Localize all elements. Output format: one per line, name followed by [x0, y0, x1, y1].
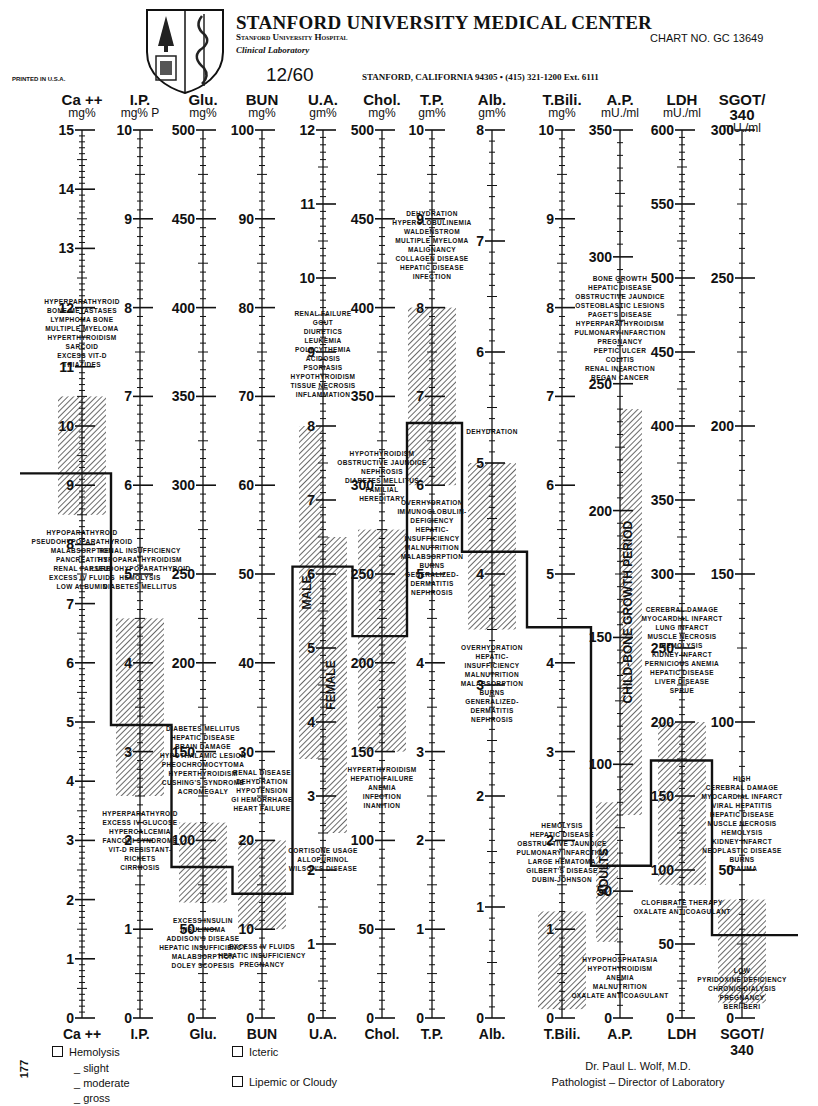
svg-text:PAGET'S DISEASE: PAGET'S DISEASE — [588, 311, 652, 318]
svg-text:CIRRHOSIS: CIRRHOSIS — [120, 864, 160, 871]
svg-text:OSTEOBLASTIC LESIONS: OSTEOBLASTIC LESIONS — [575, 302, 665, 309]
svg-text:500: 500 — [651, 270, 675, 286]
svg-text:LOW: LOW — [734, 967, 751, 974]
svg-text:LIVER DISEASE: LIVER DISEASE — [655, 678, 710, 685]
svg-text:8: 8 — [476, 122, 484, 138]
svg-text:7: 7 — [416, 388, 424, 404]
svg-text:7: 7 — [476, 233, 484, 249]
svg-text:8: 8 — [416, 300, 424, 316]
svg-text:CEREBRAL DAMAGE: CEREBRAL DAMAGE — [646, 606, 719, 613]
lipemic-checkbox[interactable]: Lipemic or Cloudy — [232, 1076, 337, 1088]
svg-text:1: 1 — [416, 921, 424, 937]
svg-text:15: 15 — [58, 122, 74, 138]
svg-text:DUBIN-JOHNSON: DUBIN-JOHNSON — [532, 876, 592, 883]
svg-text:0: 0 — [246, 1010, 254, 1026]
svg-text:NEOPLASTIC DISEASE: NEOPLASTIC DISEASE — [702, 847, 782, 854]
svg-text:DEFICIENCY: DEFICIENCY — [410, 517, 454, 524]
hemolysis-checkbox[interactable]: Hemolysis — [52, 1046, 120, 1058]
svg-text:20: 20 — [238, 832, 254, 848]
svg-text:600: 600 — [651, 122, 675, 138]
svg-text:2: 2 — [416, 832, 424, 848]
svg-text:MALIGNANCY: MALIGNANCY — [408, 246, 456, 253]
svg-text:CEREBRAL DAMAGE: CEREBRAL DAMAGE — [706, 784, 779, 791]
svg-text:VIRAL HEPATITIS: VIRAL HEPATITIS — [712, 802, 772, 809]
svg-text:EXCESS IV FLUIDS: EXCESS IV FLUIDS — [229, 943, 295, 950]
svg-text:0: 0 — [416, 1010, 424, 1026]
svg-text:LYMPHOMA BONE: LYMPHOMA BONE — [51, 316, 114, 323]
svg-text:HEREDITARY: HEREDITARY — [359, 495, 405, 502]
svg-text:FEMALE: FEMALE — [324, 660, 338, 709]
svg-text:PHEOCHROMOCYTOMA: PHEOCHROMOCYTOMA — [162, 761, 244, 768]
svg-text:10: 10 — [538, 122, 554, 138]
svg-text:PYRIDOXINE DEFICIENCY: PYRIDOXINE DEFICIENCY — [697, 976, 787, 983]
svg-text:200: 200 — [651, 714, 675, 730]
svg-text:1: 1 — [124, 921, 132, 937]
svg-text:HEPATIC DISEASE: HEPATIC DISEASE — [650, 669, 714, 676]
svg-text:PSORIASIS: PSORIASIS — [304, 364, 343, 371]
svg-text:COLLAGEN DISEASE: COLLAGEN DISEASE — [395, 255, 468, 262]
svg-text:MALABSORPTION: MALABSORPTION — [401, 553, 464, 560]
svg-text:5: 5 — [66, 714, 74, 730]
svg-text:450: 450 — [651, 344, 675, 360]
svg-text:INSUFFICIENCY: INSUFFICIENCY — [464, 662, 519, 669]
svg-text:BURNS: BURNS — [419, 562, 444, 569]
svg-text:BURNS: BURNS — [729, 856, 754, 863]
svg-text:300: 300 — [589, 249, 613, 265]
svg-text:HYPERTHYROIDISM: HYPERTHYROIDISM — [168, 770, 237, 777]
svg-text:PEPTIC ULCER: PEPTIC ULCER — [594, 347, 646, 354]
svg-text:0: 0 — [187, 1010, 195, 1026]
svg-text:EXCESS IV GLUCOSE: EXCESS IV GLUCOSE — [102, 819, 177, 826]
svg-text:PULMONARY INFARCTION: PULMONARY INFARCTION — [574, 329, 665, 336]
svg-text:HEMOLYSIS: HEMOLYSIS — [541, 822, 583, 829]
svg-text:RENAL INFARCTION: RENAL INFARCTION — [585, 365, 655, 372]
svg-text:MULTIPLE MYELOMA: MULTIPLE MYELOMA — [45, 325, 118, 332]
svg-text:INFECTION: INFECTION — [363, 793, 402, 800]
svg-text:4: 4 — [476, 566, 484, 582]
svg-text:5: 5 — [476, 455, 484, 471]
svg-text:EXCESS INSULIN: EXCESS INSULIN — [173, 917, 233, 924]
svg-text:0: 0 — [546, 1010, 554, 1026]
svg-text:LEUKEMIA: LEUKEMIA — [304, 337, 341, 344]
svg-text:4: 4 — [416, 655, 424, 671]
svg-text:200: 200 — [589, 503, 613, 519]
svg-text:GILBERT'S DISEASE: GILBERT'S DISEASE — [526, 867, 598, 874]
svg-text:300: 300 — [651, 566, 675, 582]
svg-text:INSUFFICIENCY: INSUFFICIENCY — [404, 535, 459, 542]
svg-text:10: 10 — [238, 921, 254, 937]
svg-text:HEPATIC DISEASE: HEPATIC DISEASE — [710, 811, 774, 818]
svg-text:1: 1 — [66, 951, 74, 967]
svg-text:BURNS: BURNS — [479, 689, 504, 696]
svg-text:PSEUDOHYPOPARATHYROID: PSEUDOHYPOPARATHYROID — [90, 565, 191, 572]
svg-text:PSEUDOHYPOPARATHYROID: PSEUDOHYPOPARATHYROID — [32, 538, 133, 545]
icteric-checkbox[interactable]: Icteric — [232, 1046, 278, 1058]
svg-text:6: 6 — [66, 655, 74, 671]
svg-text:OVERHYDRATION: OVERHYDRATION — [401, 499, 463, 506]
svg-text:4: 4 — [546, 655, 554, 671]
svg-text:KIDNEY INFARCT: KIDNEY INFARCT — [652, 651, 712, 658]
svg-text:0: 0 — [366, 1010, 374, 1026]
svg-text:350: 350 — [651, 492, 675, 508]
checkbox-icon — [232, 1076, 243, 1087]
svg-text:500: 500 — [351, 122, 375, 138]
svg-text:6: 6 — [546, 477, 554, 493]
svg-text:100: 100 — [651, 862, 675, 878]
svg-text:INSULINOMA: INSULINOMA — [180, 926, 225, 933]
svg-text:BRAIN DAMAGE: BRAIN DAMAGE — [175, 743, 231, 750]
svg-text:12: 12 — [299, 122, 315, 138]
svg-text:10: 10 — [408, 122, 424, 138]
svg-text:COLITIS: COLITIS — [606, 356, 635, 363]
svg-text:HYPERTHYROIDISM: HYPERTHYROIDISM — [347, 766, 416, 773]
svg-text:400: 400 — [172, 300, 196, 316]
svg-text:7: 7 — [66, 596, 74, 612]
svg-text:MALNUTRITION: MALNUTRITION — [465, 671, 519, 678]
svg-text:WILSON'S DISEASE: WILSON'S DISEASE — [289, 865, 358, 872]
svg-text:4: 4 — [66, 773, 74, 789]
svg-text:VIT-D RESISTANT-: VIT-D RESISTANT- — [109, 846, 172, 853]
svg-text:9: 9 — [124, 211, 132, 227]
svg-text:3: 3 — [66, 832, 74, 848]
svg-text:HEPATIC-: HEPATIC- — [476, 653, 509, 660]
svg-text:70: 70 — [238, 388, 254, 404]
svg-text:HIGH: HIGH — [733, 775, 751, 782]
svg-text:13: 13 — [58, 240, 74, 256]
svg-text:TISSUE NECROSIS: TISSUE NECROSIS — [290, 382, 355, 389]
